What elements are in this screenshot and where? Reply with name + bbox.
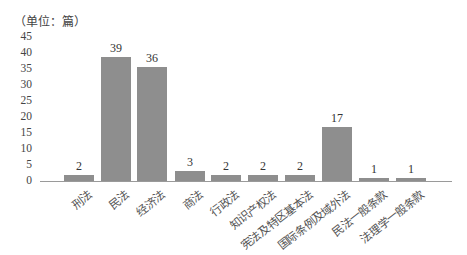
- bar: [211, 175, 241, 181]
- value-label: 2: [248, 159, 278, 174]
- value-label: 1: [396, 162, 426, 177]
- bar: [137, 67, 167, 181]
- bar: [285, 175, 315, 181]
- y-tick: 15: [10, 126, 32, 138]
- value-label: 2: [64, 159, 94, 174]
- x-tick-label: 经济法: [132, 186, 168, 219]
- unit-label: （单位：篇）: [14, 12, 86, 29]
- value-label: 2: [285, 159, 315, 174]
- bar: [175, 171, 205, 181]
- y-tick: 25: [10, 94, 32, 106]
- x-tick-label: 商法: [179, 186, 206, 212]
- y-tick: 35: [10, 62, 32, 74]
- value-label: 1: [359, 162, 389, 177]
- bar: [396, 178, 426, 181]
- value-label: 3: [175, 155, 205, 170]
- x-axis-line: [40, 181, 452, 182]
- bar: [322, 127, 352, 181]
- bar: [101, 57, 131, 181]
- bar: [248, 175, 278, 181]
- value-label: 2: [211, 159, 241, 174]
- x-tick-label: 刑法: [68, 186, 95, 212]
- bar: [359, 178, 389, 181]
- y-tick: 10: [10, 142, 32, 154]
- bar: [64, 175, 94, 181]
- y-tick: 40: [10, 46, 32, 58]
- y-tick: 30: [10, 78, 32, 90]
- value-label: 39: [101, 41, 131, 56]
- y-tick: 5: [10, 158, 32, 170]
- x-tick-label: 民法: [105, 186, 132, 212]
- value-label: 17: [322, 111, 352, 126]
- y-tick: 20: [10, 110, 32, 122]
- value-label: 36: [137, 51, 167, 66]
- y-tick: 0: [10, 174, 32, 186]
- y-tick: 45: [10, 30, 32, 42]
